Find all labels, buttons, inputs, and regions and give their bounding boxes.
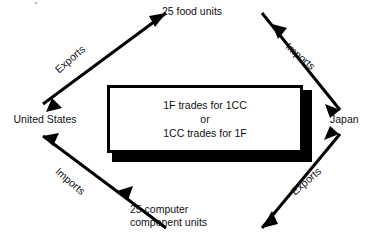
node-label-computer-component-units: 25 computer component units xyxy=(130,203,260,229)
computer-units-line-2: component units xyxy=(130,216,260,229)
trade-rate-text: 1F trades for 1CC or 1CC trades for 1F xyxy=(163,98,246,140)
node-label-japan: Japan xyxy=(330,113,376,125)
trade-rate-box: 1F trades for 1CC or 1CC trades for 1F xyxy=(107,85,303,153)
node-label-united-states: United States xyxy=(6,113,84,125)
trade-rate-line-1: 1F trades for 1CC xyxy=(163,98,246,112)
node-label-food-units: 25 food units xyxy=(122,5,262,17)
trade-rate-line-3: 1CC trades for 1F xyxy=(163,126,246,140)
computer-units-line-1: 25 computer xyxy=(130,203,260,216)
trade-rate-line-2: or xyxy=(163,112,246,126)
trade-flow-diagram: United States Japan 25 food units 25 com… xyxy=(0,0,382,239)
